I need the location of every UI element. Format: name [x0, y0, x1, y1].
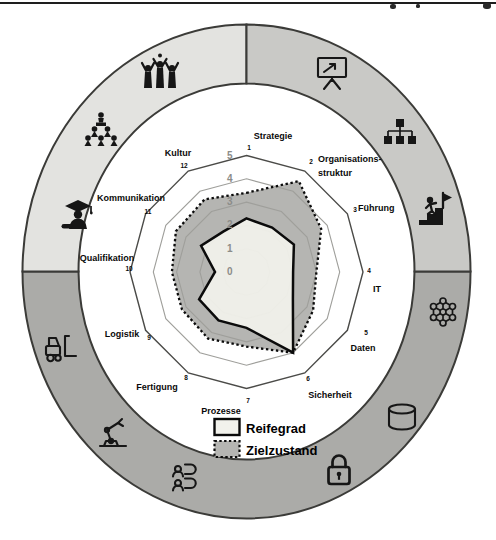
axis-label-10: Kommunikation [97, 193, 165, 203]
axis-number-5: 6 [306, 375, 310, 382]
axis-number-8: 9 [147, 334, 151, 341]
axis-number-6: 7 [246, 397, 250, 404]
scale-tick: 5 [227, 150, 233, 161]
axis-label-1-line2: struktur [318, 168, 353, 178]
figure-page: 543210 Strategie1Organisations-struktur2… [0, 0, 496, 540]
axis-number-2: 3 [353, 206, 357, 213]
axis-number-9: 10 [125, 265, 133, 272]
scale-tick: 1 [227, 243, 233, 254]
axis-label-6: Prozesse [201, 406, 241, 416]
axis-number-7: 8 [184, 374, 188, 381]
axis-label-1: Organisations- [318, 154, 382, 164]
axis-label-3: IT [373, 284, 382, 294]
legend-label-zielzustand: Zielzustand [246, 443, 318, 458]
axis-label-2: Führung [358, 203, 395, 213]
radar-chart [130, 156, 363, 389]
scale-tick: 3 [227, 196, 233, 207]
axis-number-3: 4 [367, 267, 371, 274]
axis-label-4: Daten [350, 343, 375, 353]
scale-tick: 4 [227, 173, 233, 184]
axis-number-10: 11 [145, 208, 152, 215]
axis-label-9: Qualifikation [80, 253, 135, 263]
axis-label-0: Strategie [254, 131, 293, 141]
axis-label-5: Sicherheit [308, 390, 352, 400]
axis-number-0: 1 [247, 144, 251, 151]
legend-swatch-reifegrad [215, 419, 240, 435]
maturity-radar-figure: 543210 Strategie1Organisations-struktur2… [0, 0, 496, 540]
axis-number-11: 12 [180, 162, 188, 169]
scale-tick: 2 [227, 219, 233, 230]
legend-label-reifegrad: Reifegrad [246, 421, 306, 436]
axis-label-8: Logistik [105, 329, 140, 339]
legend-swatch-zielzustand [215, 441, 240, 457]
axis-label-11: Kultur [165, 148, 192, 158]
scale-tick: 0 [227, 266, 233, 277]
chart-legend: Reifegrad Zielzustand [215, 419, 318, 458]
axis-label-7: Fertigung [136, 382, 178, 392]
axis-number-4: 5 [364, 329, 368, 336]
axis-number-1: 2 [309, 158, 313, 165]
